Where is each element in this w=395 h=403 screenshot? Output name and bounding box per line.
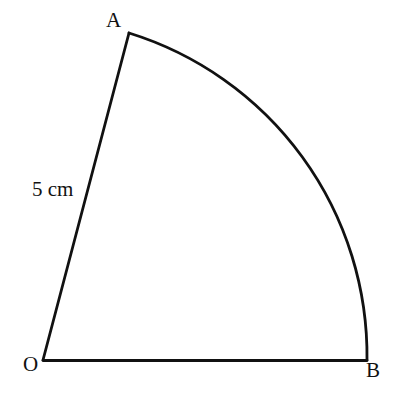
vertex-label-a: A [106,10,121,31]
vertex-label-o: O [23,354,38,375]
vertex-label-b: B [366,360,380,381]
diagram-canvas: A B O 5 cm [0,0,395,403]
radius-dimension-label: 5 cm [32,178,73,200]
sector-drawing [0,0,395,403]
arc-ab [129,33,367,360]
